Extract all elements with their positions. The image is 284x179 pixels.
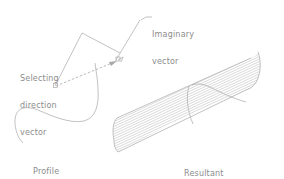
label-line: Resultant [184,169,224,178]
profile-upper-segment [95,63,98,90]
label-profile-curve: Profile curve [33,149,59,179]
imaginary-vector-leader [141,17,152,20]
label-line: Profile [33,167,59,176]
label-resultant-surface: Resultant surface [184,151,224,179]
label-line: vector [20,128,59,137]
label-line: direction [20,101,59,110]
tabulated-surface-diagram: Selecting direction vector Imaginary vec… [0,0,284,179]
direction-polyline [55,20,140,86]
label-line: vector [152,57,194,66]
arrowhead-icon [109,61,117,66]
label-line: Imaginary [152,30,194,39]
label-imaginary-vector: Imaginary vector [152,12,194,84]
surface-bottom-edge [118,90,246,152]
label-line: Selecting [20,74,59,83]
imaginary-vector-arrow [54,57,124,88]
label-selecting-direction-vector: Selecting direction vector [20,56,59,155]
